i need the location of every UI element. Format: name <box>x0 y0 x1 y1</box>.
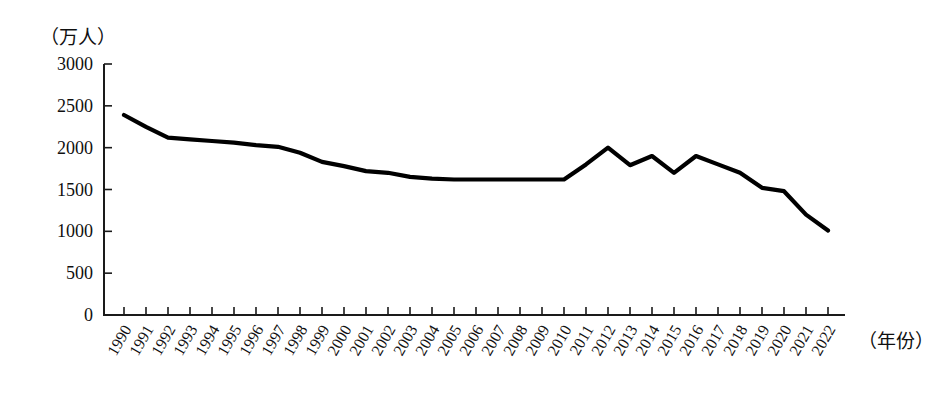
x-axis-unit-label: （年份） <box>858 331 933 352</box>
x-axis-ticks <box>124 307 828 315</box>
y-tick-label: 500 <box>66 263 93 283</box>
y-tick-label: 3000 <box>57 54 93 74</box>
x-tick-label: 2010 <box>544 322 575 358</box>
series-line-path <box>124 115 828 231</box>
y-tick-label: 2500 <box>57 96 93 116</box>
y-tick-label: 1500 <box>57 180 93 200</box>
line-chart-figure: （万人） 050010001500200025003000 1990199119… <box>0 0 933 395</box>
y-tick-label: 1000 <box>57 221 93 241</box>
y-axis-unit-label: （万人） <box>40 27 116 48</box>
y-tick-label: 0 <box>84 305 93 325</box>
y-tick-label: 2000 <box>57 138 93 158</box>
chart-canvas: （万人） 050010001500200025003000 1990199119… <box>0 0 933 395</box>
chart-axes-lines <box>104 64 845 315</box>
x-tick-label: 2022 <box>808 322 839 358</box>
data-series-group <box>124 115 828 231</box>
x-axis-tick-labels: 1990199119921993199419951996199719981999… <box>104 322 839 358</box>
